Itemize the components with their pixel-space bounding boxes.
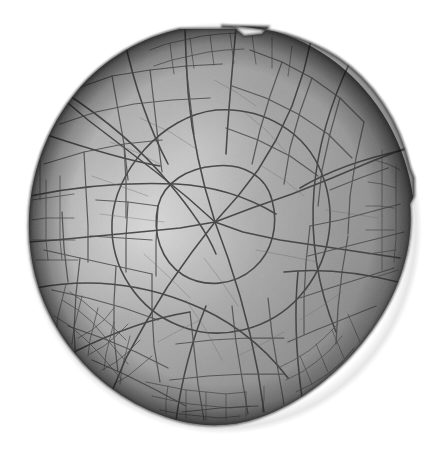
image-canvas: Ceramic bowl with crackle glaze ceramic-… [0,0,444,457]
ceramic-bowl-photograph: Ceramic bowl with crackle glaze ceramic-… [0,0,444,457]
